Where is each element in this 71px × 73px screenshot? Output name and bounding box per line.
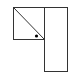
geometry-diagram: [0, 0, 71, 73]
tall-rectangle-shape: [45, 8, 68, 72]
diagonal-line: [14, 8, 45, 40]
point-dot: [35, 34, 38, 37]
